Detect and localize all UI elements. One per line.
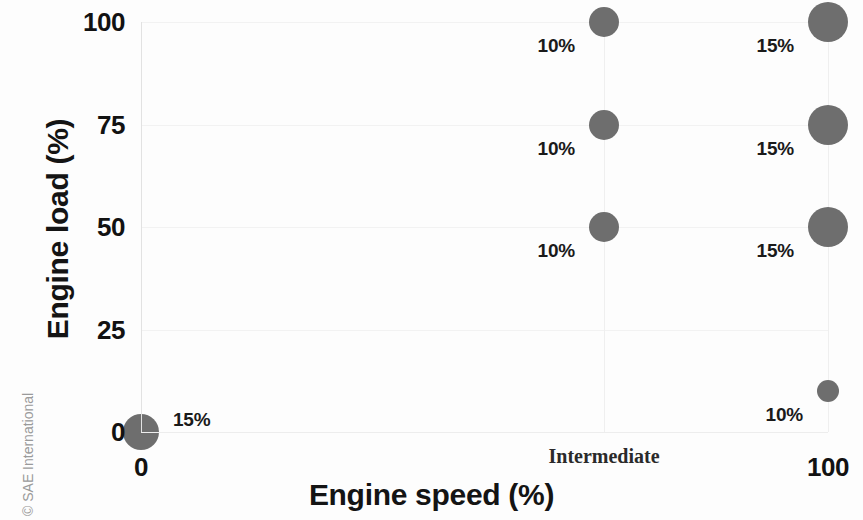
data-point-bubble	[589, 7, 619, 37]
bubble-value-label: 10%	[538, 138, 575, 160]
bubble-value-label: 10%	[538, 240, 575, 262]
gridline-horizontal	[141, 125, 828, 126]
gridline-horizontal	[141, 227, 828, 228]
data-point-bubble	[589, 212, 619, 242]
bubble-value-label: 15%	[757, 138, 794, 160]
bubble-value-label: 10%	[538, 35, 575, 57]
y-tick-label: 25	[97, 314, 125, 345]
gridline-horizontal	[141, 330, 828, 331]
bubble-value-label: 10%	[766, 404, 803, 426]
bubble-value-label: 15%	[757, 240, 794, 262]
bubble-chart-figure: 0255075100 0Intermediate100 15%10%10%10%…	[0, 0, 863, 520]
y-tick-label: 50	[97, 212, 125, 243]
y-tick-label: 75	[97, 109, 125, 140]
bubble-value-label: 15%	[757, 35, 794, 57]
x-axis-line	[141, 432, 828, 433]
data-point-bubble	[808, 105, 848, 145]
data-point-bubble	[589, 110, 619, 140]
bubble-value-label: 15%	[173, 409, 210, 431]
x-axis-title: Engine speed (%)	[0, 478, 863, 512]
y-axis-title: Engine load (%)	[41, 79, 75, 379]
data-point-bubble	[808, 207, 848, 247]
plot-area	[141, 22, 828, 432]
y-tick-label: 0	[111, 417, 125, 448]
y-axis-line	[141, 22, 142, 432]
y-tick-label: 100	[83, 7, 125, 38]
x-tick-label: Intermediate	[548, 445, 659, 468]
gridline-horizontal	[141, 22, 828, 23]
copyright-credit: © SAE International	[20, 356, 36, 516]
data-point-bubble	[808, 2, 848, 42]
data-point-bubble	[817, 380, 839, 402]
